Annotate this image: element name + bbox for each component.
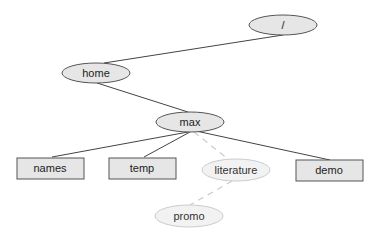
node-temp-label: temp: [130, 162, 154, 174]
node-demo[interactable]: demo: [296, 160, 363, 181]
node-promo[interactable]: promo: [155, 205, 223, 227]
node-max-label: max: [180, 116, 201, 128]
node-literature[interactable]: literature: [202, 159, 270, 181]
node-demo-label: demo: [315, 164, 343, 176]
edge-max-literature: [194, 132, 228, 159]
node-home-label: home: [82, 67, 110, 79]
node-home[interactable]: home: [62, 63, 130, 83]
node-temp[interactable]: temp: [109, 158, 176, 179]
edge-literature-promo: [190, 181, 232, 205]
node-promo-label: promo: [173, 210, 204, 222]
directory-tree-diagram: / home max names temp literature demo pr…: [0, 0, 381, 239]
node-names[interactable]: names: [17, 158, 84, 179]
edge-max-demo: [196, 131, 330, 160]
node-names-label: names: [33, 162, 67, 174]
edge-home-max: [97, 83, 188, 112]
node-root[interactable]: /: [249, 15, 317, 35]
node-max[interactable]: max: [156, 112, 224, 132]
node-literature-label: literature: [215, 164, 258, 176]
edge-root-home: [104, 35, 283, 63]
